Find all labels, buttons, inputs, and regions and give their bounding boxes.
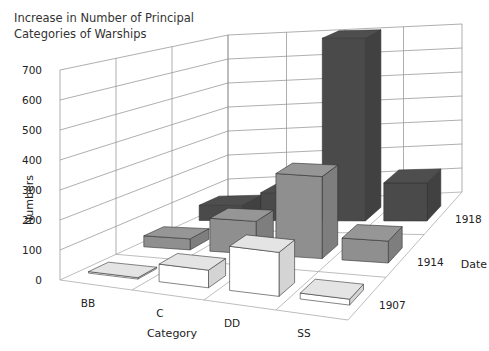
x-tick-SS: SS — [297, 327, 311, 339]
y-tick-600: 600 — [22, 94, 42, 106]
y-axis-ticks: 0100200300400500600700 — [22, 64, 42, 286]
y-axis-label: Numbers — [23, 175, 36, 225]
chart-bars — [89, 30, 441, 305]
z-tick-1914: 1914 — [417, 256, 444, 268]
bar-SS-1918 — [384, 169, 441, 221]
bar-DD-1907 — [230, 235, 295, 297]
z-tick-1918: 1918 — [455, 213, 482, 225]
y-tick-100: 100 — [22, 244, 42, 256]
y-tick-700: 700 — [22, 64, 42, 76]
3d-bar-chart: 0100200300400500600700 BBCDDSS 190719141… — [0, 0, 489, 351]
y-tick-0: 0 — [35, 274, 42, 286]
bar-BB-1907 — [89, 262, 157, 279]
bar-SS-1907 — [300, 279, 363, 305]
y-tick-500: 500 — [22, 124, 42, 136]
z-tick-1907: 1907 — [379, 299, 406, 311]
y-tick-400: 400 — [22, 154, 42, 166]
bar-BB-1914 — [144, 227, 209, 250]
x-axis-label: Category — [147, 327, 198, 340]
bar-C-1907 — [159, 254, 226, 288]
z-axis-label: Date — [461, 258, 488, 271]
x-tick-C: C — [156, 307, 163, 319]
bar-SS-1914 — [342, 225, 402, 263]
x-tick-BB: BB — [81, 297, 95, 309]
x-tick-DD: DD — [224, 317, 240, 329]
